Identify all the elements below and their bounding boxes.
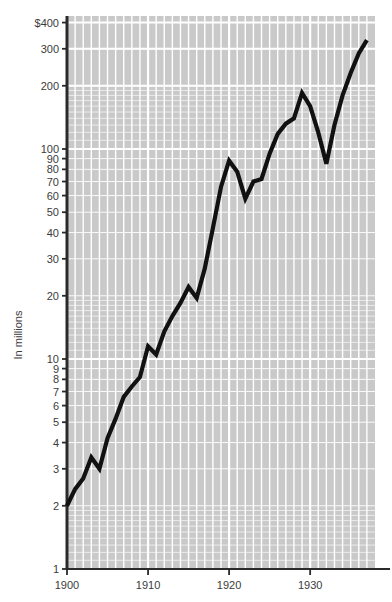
y-tick-label: 200 [41,80,59,92]
y-tick-label: 5 [53,416,59,428]
x-tick-label: 1930 [298,579,322,591]
y-tick-label: 20 [47,290,59,302]
y-tick-label: 50 [47,206,59,218]
chart-figure: 123456789102030405060708090100200300$400… [0,0,392,602]
y-tick-label: $400 [35,17,59,29]
y-tick-label: 1 [53,563,59,575]
y-axis-ticks: 123456789102030405060708090100200300$400 [35,17,67,575]
y-tick-label: 30 [47,253,59,265]
x-tick-label: 1900 [55,579,79,591]
y-tick-label: 6 [53,400,59,412]
y-tick-label: 4 [53,437,59,449]
y-tick-label: 100 [41,143,59,155]
line-chart-svg: 123456789102030405060708090100200300$400… [0,0,392,602]
x-tick-label: 1920 [217,579,241,591]
y-tick-label: 7 [53,386,59,398]
y-tick-label: 60 [47,190,59,202]
y-tick-label: 3 [53,463,59,475]
y-tick-label: 80 [47,163,59,175]
y-axis-title: In millions [12,310,24,359]
y-tick-label: 70 [47,176,59,188]
x-tick-label: 1910 [136,579,160,591]
y-tick-label: 40 [47,227,59,239]
y-tick-label: 2 [53,500,59,512]
y-tick-label: 10 [47,353,59,365]
y-tick-label: 8 [53,373,59,385]
x-axis-ticks: 1900191019201930 [55,569,323,591]
y-tick-label: 300 [41,43,59,55]
